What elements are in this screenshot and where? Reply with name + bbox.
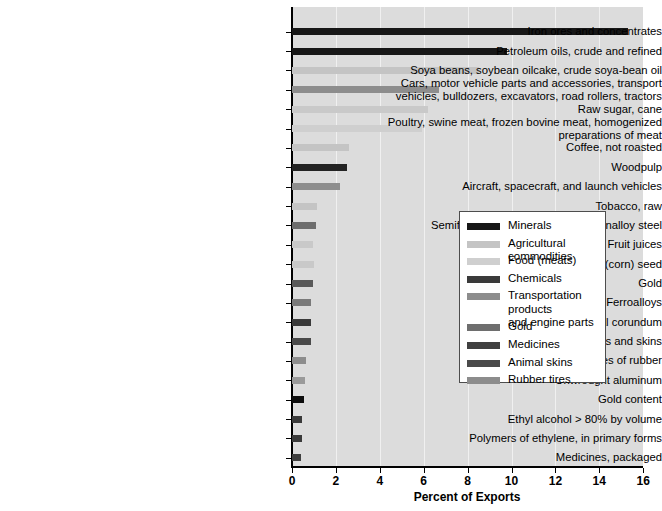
bar bbox=[292, 183, 340, 190]
legend-swatch bbox=[467, 360, 500, 367]
bar bbox=[292, 416, 302, 423]
legend-swatch bbox=[467, 258, 500, 265]
category-label: Raw sugar, cane bbox=[376, 103, 662, 116]
y-axis-tick bbox=[286, 129, 291, 130]
y-axis-tick bbox=[286, 458, 291, 459]
x-axis-tick-label: 6 bbox=[404, 474, 444, 488]
category-label: Coffee, not roasted bbox=[376, 141, 662, 154]
category-label: Iron ores and concentrates bbox=[376, 25, 662, 38]
x-axis-tick-label: 16 bbox=[623, 474, 662, 488]
y-axis-tick bbox=[286, 438, 291, 439]
bar bbox=[292, 241, 313, 248]
y-axis-tick bbox=[286, 148, 291, 149]
category-label: Poultry, swine meat, frozen bovine meat,… bbox=[376, 116, 662, 141]
y-axis-tick bbox=[286, 284, 291, 285]
x-axis-tick-label: 0 bbox=[272, 474, 312, 488]
x-axis-tick-label: 4 bbox=[360, 474, 400, 488]
x-axis-tick bbox=[336, 468, 337, 473]
x-axis-tick bbox=[380, 468, 381, 473]
y-axis-tick bbox=[286, 206, 291, 207]
y-axis-tick bbox=[286, 342, 291, 343]
category-label: Petroleum oils, crude and refined bbox=[376, 45, 662, 58]
bar bbox=[292, 280, 313, 287]
y-axis-tick bbox=[286, 245, 291, 246]
legend-item: Minerals bbox=[467, 219, 551, 233]
category-label: Gold content bbox=[376, 393, 662, 406]
bar bbox=[292, 164, 347, 171]
y-axis-tick bbox=[286, 32, 291, 33]
legend-box: MineralsAgricultural commoditiesFood (me… bbox=[459, 211, 606, 383]
legend-label: Food (meats) bbox=[508, 254, 576, 268]
legend-swatch bbox=[467, 324, 500, 331]
bar bbox=[292, 261, 314, 268]
bar bbox=[292, 203, 317, 210]
gridline bbox=[336, 7, 337, 467]
y-axis-tick bbox=[286, 70, 291, 71]
bar bbox=[292, 435, 302, 442]
x-axis-tick bbox=[643, 468, 644, 473]
y-axis-tick bbox=[286, 187, 291, 188]
bar bbox=[292, 222, 316, 229]
y-axis-tick bbox=[286, 167, 291, 168]
y-axis-tick bbox=[286, 225, 291, 226]
legend-label: Medicines bbox=[508, 338, 560, 352]
x-axis-title: Percent of Exports bbox=[291, 490, 643, 504]
y-axis-tick bbox=[286, 303, 291, 304]
x-axis-tick bbox=[599, 468, 600, 473]
category-label: Ethyl alcohol > 80% by volume bbox=[376, 413, 662, 426]
chart-figure: Iron ores and concentratesPetroleum oils… bbox=[0, 0, 662, 511]
bar bbox=[292, 299, 311, 306]
y-axis-tick bbox=[286, 400, 291, 401]
category-label: Medicines, packaged bbox=[376, 451, 662, 464]
y-axis-tick bbox=[286, 361, 291, 362]
legend-item: Chemicals bbox=[467, 272, 562, 286]
legend-swatch bbox=[467, 342, 500, 349]
bar bbox=[292, 377, 305, 384]
bar bbox=[292, 338, 311, 345]
x-axis-tick bbox=[292, 468, 293, 473]
legend-label: Gold bbox=[508, 320, 532, 334]
y-axis-tick bbox=[286, 51, 291, 52]
category-label: Polymers of ethylene, in primary forms bbox=[376, 432, 662, 445]
legend-swatch bbox=[467, 241, 500, 248]
x-axis-tick-label: 2 bbox=[316, 474, 356, 488]
x-axis-tick-label: 8 bbox=[448, 474, 488, 488]
x-axis-tick bbox=[468, 468, 469, 473]
legend-swatch bbox=[467, 293, 500, 300]
x-axis-tick-label: 14 bbox=[579, 474, 619, 488]
category-label: Soya beans, soybean oilcake, crude soya-… bbox=[376, 64, 662, 77]
legend-item: Medicines bbox=[467, 338, 560, 352]
bar bbox=[292, 144, 349, 151]
bar bbox=[292, 396, 304, 403]
x-axis-tick-label: 12 bbox=[535, 474, 575, 488]
category-label: Aircraft, spacecraft, and launch vehicle… bbox=[376, 180, 662, 193]
category-label: Cars, motor vehicle parts and accessorie… bbox=[376, 77, 662, 102]
legend-item: Gold bbox=[467, 320, 532, 334]
y-axis-tick bbox=[286, 380, 291, 381]
legend-swatch bbox=[467, 276, 500, 283]
x-axis-tick bbox=[555, 468, 556, 473]
x-axis-tick bbox=[424, 468, 425, 473]
y-axis-tick bbox=[286, 109, 291, 110]
category-label: Woodpulp bbox=[376, 161, 662, 174]
y-axis-tick bbox=[286, 264, 291, 265]
legend-item: Rubber tires bbox=[467, 373, 571, 387]
legend-swatch bbox=[467, 223, 500, 230]
y-axis-tick bbox=[286, 322, 291, 323]
y-axis-tick bbox=[286, 90, 291, 91]
bar bbox=[292, 319, 311, 326]
legend-item: Animal skins bbox=[467, 356, 573, 370]
x-axis-tick bbox=[512, 468, 513, 473]
x-axis-tick-label: 10 bbox=[492, 474, 532, 488]
legend-label: Rubber tires bbox=[508, 373, 571, 387]
bar bbox=[292, 454, 301, 461]
legend-label: Chemicals bbox=[508, 272, 562, 286]
legend-item: Food (meats) bbox=[467, 254, 576, 268]
legend-label: Minerals bbox=[508, 219, 551, 233]
legend-label: Animal skins bbox=[508, 356, 573, 370]
bar bbox=[292, 357, 306, 364]
legend-swatch bbox=[467, 377, 500, 384]
y-axis-tick bbox=[286, 419, 291, 420]
